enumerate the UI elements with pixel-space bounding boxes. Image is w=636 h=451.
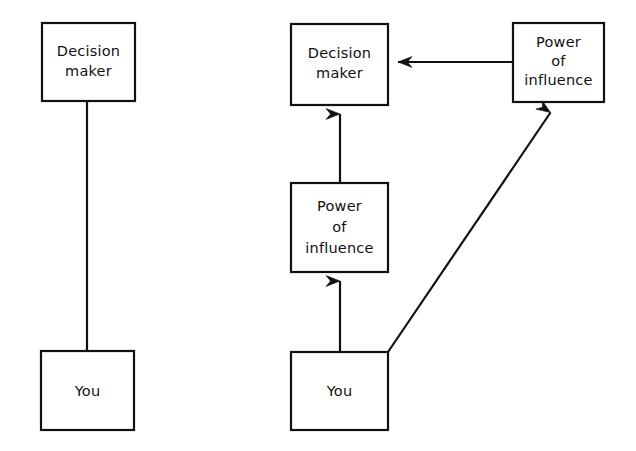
direct-relationship-panel: Decision maker You: [41, 23, 135, 430]
node-label-line-1: Decision: [57, 43, 120, 59]
node-right-power-of-influence-top[interactable]: Power of influence: [513, 23, 604, 102]
power-of-influence-panel: Decision maker Power of influence Power …: [291, 23, 604, 430]
node-label-line-1: Decision: [308, 45, 371, 61]
node-right-decision-maker[interactable]: Decision maker: [291, 24, 388, 105]
node-label-line-1: You: [74, 383, 101, 399]
node-left-you[interactable]: You: [41, 351, 134, 430]
node-label-line-3: influence: [305, 240, 373, 256]
node-right-power-of-influence-middle[interactable]: Power of influence: [291, 183, 388, 272]
node-label-line-1: Power: [317, 198, 362, 214]
node-label-line-3: influence: [524, 72, 592, 88]
node-label-line-2: of: [332, 219, 347, 235]
node-label-line-2: of: [551, 53, 566, 69]
connector-you-to-power-top: [388, 113, 551, 353]
node-label-line-1: Power: [536, 34, 581, 50]
node-box: [42, 23, 135, 101]
node-label-line-2: maker: [316, 65, 363, 81]
node-label-line-2: maker: [65, 63, 112, 79]
node-left-decision-maker[interactable]: Decision maker: [42, 23, 135, 101]
node-label-line-1: You: [326, 383, 353, 399]
diagram-canvas: Decision maker You Decision maker Power: [0, 0, 636, 451]
node-right-you[interactable]: You: [291, 352, 388, 430]
